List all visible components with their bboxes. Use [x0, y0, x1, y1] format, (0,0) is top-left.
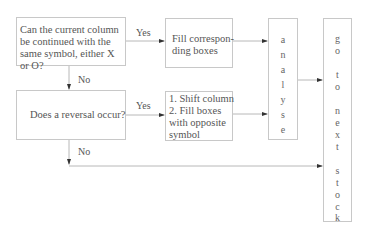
question-reversal-text: Does a reversal occur? — [30, 109, 125, 121]
analyse-letter: a — [269, 34, 297, 46]
next-stock-letter: e — [324, 117, 351, 129]
next-stock-letter: o — [324, 45, 351, 57]
question-continue-column-box: Can the current column be continued with… — [16, 17, 126, 66]
no-label-1: No — [78, 74, 90, 85]
next-stock-letter: s — [324, 165, 351, 177]
fill-boxes-box: Fill correspon- ding boxes — [165, 18, 233, 68]
shift-column-line3: with opposite — [169, 117, 226, 129]
yes-label-1: Yes — [136, 27, 151, 38]
analyse-letter: e — [269, 124, 297, 136]
next-stock-letter: x — [324, 129, 351, 141]
shift-column-line4: symbol — [169, 129, 200, 141]
analyse-letter: l — [269, 79, 297, 91]
go-to-next-stock-box: g o t o n e x t s t o c k — [323, 18, 352, 222]
next-stock-letter: o — [324, 81, 351, 93]
fill-boxes-text-line1: Fill correspon- — [172, 33, 234, 45]
next-stock-letter: t — [324, 177, 351, 189]
question-continue-column-text: Can the current column be continued with… — [20, 24, 124, 72]
yes-label-2: Yes — [136, 100, 151, 111]
analyse-letter: s — [269, 109, 297, 121]
analyse-box: a n a l y s e — [268, 18, 298, 140]
next-stock-letter: n — [324, 105, 351, 117]
question-reversal-box: Does a reversal occur? — [16, 90, 126, 140]
shift-column-box: 1. Shift column 2. Fill boxes with oppos… — [165, 91, 233, 141]
next-stock-letter: o — [324, 189, 351, 201]
analyse-letter: n — [269, 49, 297, 61]
next-stock-letter: g — [324, 33, 351, 45]
shift-column-line1: 1. Shift column — [169, 93, 234, 105]
fill-boxes-text-line2: ding boxes — [172, 45, 218, 57]
shift-column-line2: 2. Fill boxes — [169, 105, 221, 117]
next-stock-letter: t — [324, 69, 351, 81]
analyse-letter: y — [269, 94, 297, 106]
analyse-letter: a — [269, 64, 297, 76]
next-stock-letter: t — [324, 141, 351, 153]
no-label-2: No — [78, 146, 90, 157]
next-stock-letter: k — [324, 212, 351, 224]
